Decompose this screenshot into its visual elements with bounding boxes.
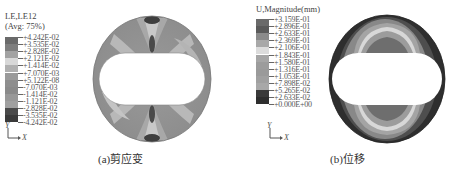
- legend-color-band: [256, 40, 269, 47]
- legend-color-band: [5, 80, 18, 87]
- axis-triad-icon: [267, 128, 283, 140]
- shear-strain-contour-plot: [92, 14, 212, 144]
- displacement-contour-plot: [328, 13, 446, 145]
- legend-color-band: [256, 62, 269, 69]
- legend-title-variable: LE,LE12: [5, 11, 36, 21]
- legend-title-avg: (Avg: 75%): [5, 21, 45, 31]
- legend-color-band: [256, 76, 269, 83]
- panel-shear-strain: LE,LE12 (Avg: 75%) +4.242E-02+3.535E-02+…: [0, 0, 232, 180]
- legend-color-band: [256, 83, 269, 90]
- axis-x-label: X: [284, 133, 289, 142]
- figure-caption: (b)位移: [330, 150, 365, 166]
- legend-color-band: [5, 58, 18, 65]
- legend-value-label: -4.242E-02: [23, 119, 57, 127]
- legend-color-band: [5, 37, 18, 44]
- legend-color-band: [5, 73, 18, 80]
- legend-value-label: +0.000E+00: [274, 101, 312, 109]
- figure-caption: (a)剪应变: [98, 150, 143, 166]
- legend-color-band: [256, 97, 269, 104]
- legend-color-band: [256, 26, 269, 33]
- legend-color-band: [256, 55, 269, 62]
- legend-color-band: [5, 51, 18, 58]
- legend-title-variable: U,Magnitude(mm): [256, 4, 320, 14]
- legend-color-band: [5, 101, 18, 108]
- legend-color-band: [256, 19, 269, 26]
- axis-triad-icon: [5, 128, 21, 140]
- legend-color-band: [5, 44, 18, 51]
- legend-color-band: [256, 47, 269, 54]
- legend-color-band: [5, 65, 18, 72]
- legend-color-band: [256, 69, 269, 76]
- legend-color-band: [5, 94, 18, 101]
- legend-color-band: [5, 87, 18, 94]
- axis-x-label: X: [22, 133, 27, 142]
- legend-color-band: [256, 90, 269, 97]
- legend-color-band: [5, 108, 18, 115]
- panel-displacement: U,Magnitude(mm) +3.159E-01+2.896E-01+2.6…: [232, 0, 464, 180]
- legend-color-band: [256, 33, 269, 40]
